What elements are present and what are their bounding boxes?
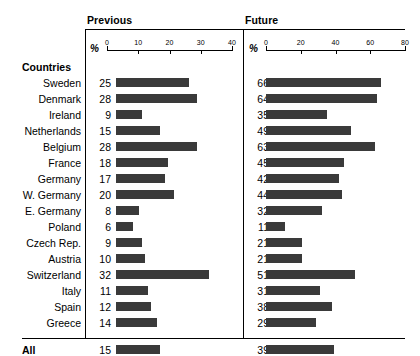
- chart-row: Belgium2863: [0, 139, 420, 155]
- chart-row: Switzerland3251: [0, 267, 420, 283]
- row-label: Ireland: [0, 109, 81, 121]
- axis-tick: [232, 46, 233, 51]
- value-previous: 14: [89, 317, 111, 329]
- bar-previous: [116, 78, 189, 87]
- chart-row: Spain1238: [0, 299, 420, 315]
- bar-previous: [116, 126, 160, 135]
- row-label: Greece: [0, 317, 81, 329]
- value-previous: 15: [89, 125, 111, 137]
- chart-row: Sweden2566: [0, 75, 420, 91]
- value-previous: 9: [89, 237, 111, 249]
- chart-row: E. Germany832: [0, 203, 420, 219]
- bar-previous: [116, 206, 139, 215]
- column-title-previous: Previous: [87, 14, 132, 26]
- value-previous: 12: [89, 301, 111, 313]
- bar-future: [266, 302, 332, 311]
- axis-tick: [138, 50, 139, 54]
- bar-future: [266, 126, 351, 135]
- axis-tick-label: 40: [228, 39, 236, 46]
- row-label: W. Germany: [0, 189, 81, 201]
- row-label: Sweden: [0, 77, 81, 89]
- percent-sign-future: %: [249, 43, 258, 54]
- value-previous: 28: [89, 93, 111, 105]
- value-previous: 20: [89, 189, 111, 201]
- row-label: Germany: [0, 173, 81, 185]
- axis-tick: [370, 50, 371, 54]
- value-previous: 17: [89, 173, 111, 185]
- value-previous: 18: [89, 157, 111, 169]
- value-previous: 10: [89, 253, 111, 265]
- bar-future: [266, 94, 377, 103]
- axis-tick-label: 20: [166, 39, 174, 46]
- axis-tick-label: 0: [264, 39, 268, 46]
- bar-previous: [116, 222, 133, 231]
- bar-future: [266, 142, 375, 151]
- bar-future: [266, 254, 302, 263]
- value-previous: 8: [89, 205, 111, 217]
- bar-previous: [116, 286, 148, 295]
- row-label: Czech Rep.: [0, 237, 81, 249]
- chart-row: Italy1131: [0, 283, 420, 299]
- bar-previous: [116, 142, 197, 151]
- axis-tick-label: 20: [297, 39, 305, 46]
- chart-row: Poland611: [0, 219, 420, 235]
- row-label: Denmark: [0, 93, 81, 105]
- header-rule: [85, 29, 405, 30]
- row-header-countries: Countries: [22, 61, 81, 73]
- bar-future: [266, 190, 342, 199]
- row-label: Spain: [0, 301, 81, 313]
- value-previous: 15: [89, 344, 111, 356]
- axis-tick-label: 80: [401, 39, 409, 46]
- bar-previous: [116, 158, 168, 167]
- bar-previous: [116, 254, 145, 263]
- footer-rule: [22, 338, 405, 339]
- row-label: France: [0, 157, 81, 169]
- bar-previous: [116, 318, 157, 327]
- bar-future: [266, 222, 285, 231]
- axis-tick: [170, 50, 171, 54]
- bar-previous: [116, 238, 142, 247]
- axis-tick-label: 30: [197, 39, 205, 46]
- axis-tick: [336, 50, 337, 54]
- bar-future: [266, 110, 327, 119]
- chart-row: Netherlands1549: [0, 123, 420, 139]
- bar-future: [266, 78, 381, 87]
- axis-tick: [405, 46, 406, 51]
- axis-tick-label: 40: [332, 39, 340, 46]
- bar-future: [266, 345, 334, 354]
- row-label: All: [22, 344, 82, 356]
- column-title-future: Future: [245, 14, 278, 26]
- chart-row: W. Germany2044: [0, 187, 420, 203]
- row-label: E. Germany: [0, 205, 81, 217]
- bar-future: [266, 206, 322, 215]
- axis-tick: [266, 46, 267, 51]
- bar-future: [266, 158, 344, 167]
- value-previous: 11: [89, 285, 111, 297]
- chart-row: Germany1742: [0, 171, 420, 187]
- x-axis-future: 020406080: [266, 50, 405, 58]
- bar-future: [266, 238, 302, 247]
- chart-row: Austria1021: [0, 251, 420, 267]
- value-previous: 25: [89, 77, 111, 89]
- row-label: Italy: [0, 285, 81, 297]
- bar-previous: [116, 345, 160, 354]
- row-label: Belgium: [0, 141, 81, 153]
- value-previous: 6: [89, 221, 111, 233]
- bar-future: [266, 174, 339, 183]
- value-previous: 32: [89, 269, 111, 281]
- chart-row: Denmark2864: [0, 91, 420, 107]
- percent-sign-previous: %: [90, 43, 99, 54]
- bar-future: [266, 286, 320, 295]
- chart-row: Ireland935: [0, 107, 420, 123]
- bar-previous: [116, 302, 151, 311]
- row-label: Switzerland: [0, 269, 81, 281]
- axis-tick: [107, 46, 108, 51]
- bar-future: [266, 318, 316, 327]
- axis-tick: [301, 50, 302, 54]
- row-label: Netherlands: [0, 125, 81, 137]
- chart-row: France1845: [0, 155, 420, 171]
- bar-previous: [116, 94, 197, 103]
- axis-tick-label: 0: [105, 39, 109, 46]
- two-panel-bar-chart: Previous Future % % 010203040 020406080 …: [0, 0, 420, 356]
- x-axis-previous: 010203040: [107, 50, 232, 58]
